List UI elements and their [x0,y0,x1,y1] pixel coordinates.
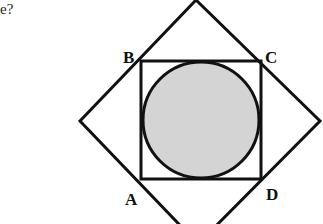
label-a: A [125,190,138,209]
label-d: D [266,185,278,204]
label-b: B [123,48,134,67]
geometry-figure: B C A D [0,0,323,224]
label-c: C [265,48,277,67]
inscribed-circle [143,62,259,178]
